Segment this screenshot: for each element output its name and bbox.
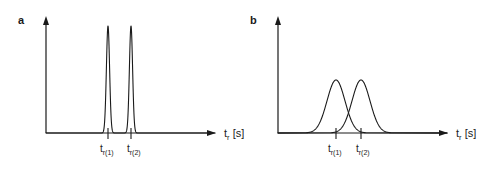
panel-a-letter: a (18, 14, 25, 26)
chromatogram-figure: a tr(1) tr(2) tr [s] b tr(1 (0, 0, 502, 172)
panel-b-letter: b (250, 14, 257, 26)
